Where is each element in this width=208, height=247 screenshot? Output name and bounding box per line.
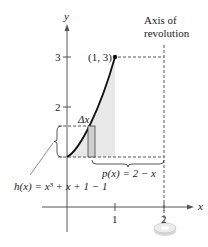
y-axis-label: y (63, 10, 69, 22)
y-tick-3: 3 (55, 51, 61, 63)
axis-of-revolution-label-1: Axis of (144, 14, 177, 26)
x-axis-label: x (197, 200, 203, 212)
y-axis-arrow-icon (65, 24, 70, 31)
point-1-3 (113, 55, 117, 59)
axis-of-revolution-label-2: revolution (144, 27, 190, 39)
delta-x-label: Δx (77, 113, 89, 125)
x-tick-1: 1 (112, 213, 118, 225)
x-axis-arrow-icon (187, 205, 194, 210)
representative-rectangle (88, 126, 95, 157)
y-tick-2: 2 (55, 101, 61, 113)
point-label: (1, 3) (88, 51, 112, 64)
x-tick-2: 2 (161, 213, 167, 225)
revolution-diagram: y x 3 2 1 2 (1, 3) Axis of revolution Δx… (0, 0, 208, 247)
leader-line-h (30, 143, 53, 175)
brace-p (92, 160, 164, 167)
h-function-label: h(x) = x³ + x + 1 − 1 (14, 180, 107, 193)
p-function-label: p(x) = 2 − x (101, 167, 156, 180)
brace-h (54, 126, 62, 157)
